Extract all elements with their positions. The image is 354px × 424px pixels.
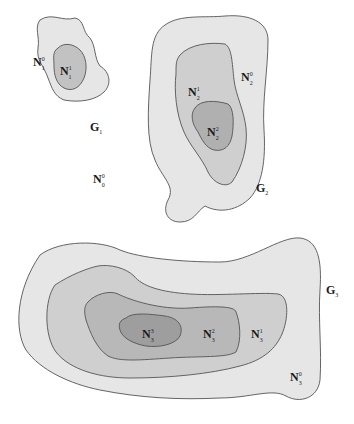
nested-regions-diagram: N01 N11 G1 N00 N02 N12 N22 G2 N33 N23 N1… <box>0 0 354 424</box>
label-g1: G1 <box>90 120 102 135</box>
label-g3: G3 <box>326 283 338 298</box>
group-g1 <box>37 17 109 101</box>
group-g3 <box>19 238 321 400</box>
label-n0-0: N00 <box>93 172 105 188</box>
label-g2: G2 <box>256 181 268 196</box>
group-g2 <box>148 16 268 222</box>
